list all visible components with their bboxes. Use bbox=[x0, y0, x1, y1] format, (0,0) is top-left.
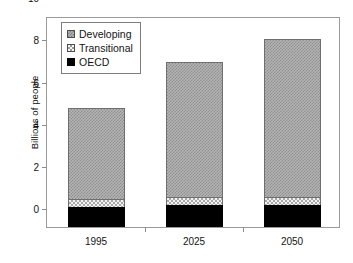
y-tick-label: 0 bbox=[33, 204, 39, 215]
y-tick-8: 8 bbox=[33, 31, 47, 49]
y-tick-mark bbox=[42, 40, 47, 41]
bar-group-2025 bbox=[166, 16, 223, 227]
y-tick-mark bbox=[42, 209, 47, 210]
x-tick-label-1995: 1995 bbox=[85, 236, 107, 247]
y-tick-label: 2 bbox=[33, 162, 39, 173]
developing-swatch-icon bbox=[67, 30, 75, 38]
x-tick-label-2025: 2025 bbox=[183, 236, 205, 247]
y-tick-label: 6 bbox=[33, 78, 39, 89]
transitional-swatch-icon bbox=[67, 44, 75, 52]
legend-label-transitional: Transitional bbox=[79, 43, 133, 54]
y-tick-4: 4 bbox=[33, 116, 47, 134]
y-tick-2: 2 bbox=[33, 158, 47, 176]
bar-segment-developing-1995 bbox=[68, 108, 125, 199]
legend-item-developing: Developing bbox=[67, 27, 133, 41]
oecd-swatch-icon bbox=[67, 58, 75, 66]
y-tick-mark bbox=[42, 125, 47, 126]
bar-segment-oecd-1995 bbox=[68, 207, 125, 227]
y-tick-label: 10 bbox=[28, 0, 39, 4]
legend-item-oecd: OECD bbox=[67, 55, 133, 69]
bar-segment-oecd-2050 bbox=[264, 205, 321, 227]
legend-item-transitional: Transitional bbox=[67, 41, 133, 55]
legend-label-oecd: OECD bbox=[79, 57, 109, 68]
bar-segment-oecd-2025 bbox=[166, 205, 223, 227]
y-tick-mark bbox=[42, 167, 47, 168]
y-tick-6: 6 bbox=[33, 73, 47, 91]
y-tick-label: 4 bbox=[33, 120, 39, 131]
x-tick-mark bbox=[243, 227, 244, 232]
x-tick-mark bbox=[145, 227, 146, 232]
bar-segment-developing-2050 bbox=[264, 39, 321, 197]
stacked-bar-chart: Billions of people 0246810 199520252050 … bbox=[0, 0, 353, 263]
bar-segment-transitional-2050 bbox=[264, 197, 321, 204]
bar-group-2050 bbox=[264, 16, 321, 227]
bar-segment-transitional-1995 bbox=[68, 199, 125, 207]
legend-label-developing: Developing bbox=[79, 29, 132, 40]
bar-segment-transitional-2025 bbox=[166, 197, 223, 205]
y-tick-10: 10 bbox=[28, 0, 47, 7]
bar-segment-developing-2025 bbox=[166, 62, 223, 197]
y-tick-0: 0 bbox=[33, 200, 47, 218]
chart-legend: Developing Transitional OECD bbox=[61, 22, 141, 74]
y-tick-mark bbox=[42, 83, 47, 84]
plot-area: 0246810 199520252050 Developing Transiti… bbox=[46, 17, 340, 228]
y-tick-label: 8 bbox=[33, 35, 39, 46]
x-tick-label-2050: 2050 bbox=[281, 236, 303, 247]
